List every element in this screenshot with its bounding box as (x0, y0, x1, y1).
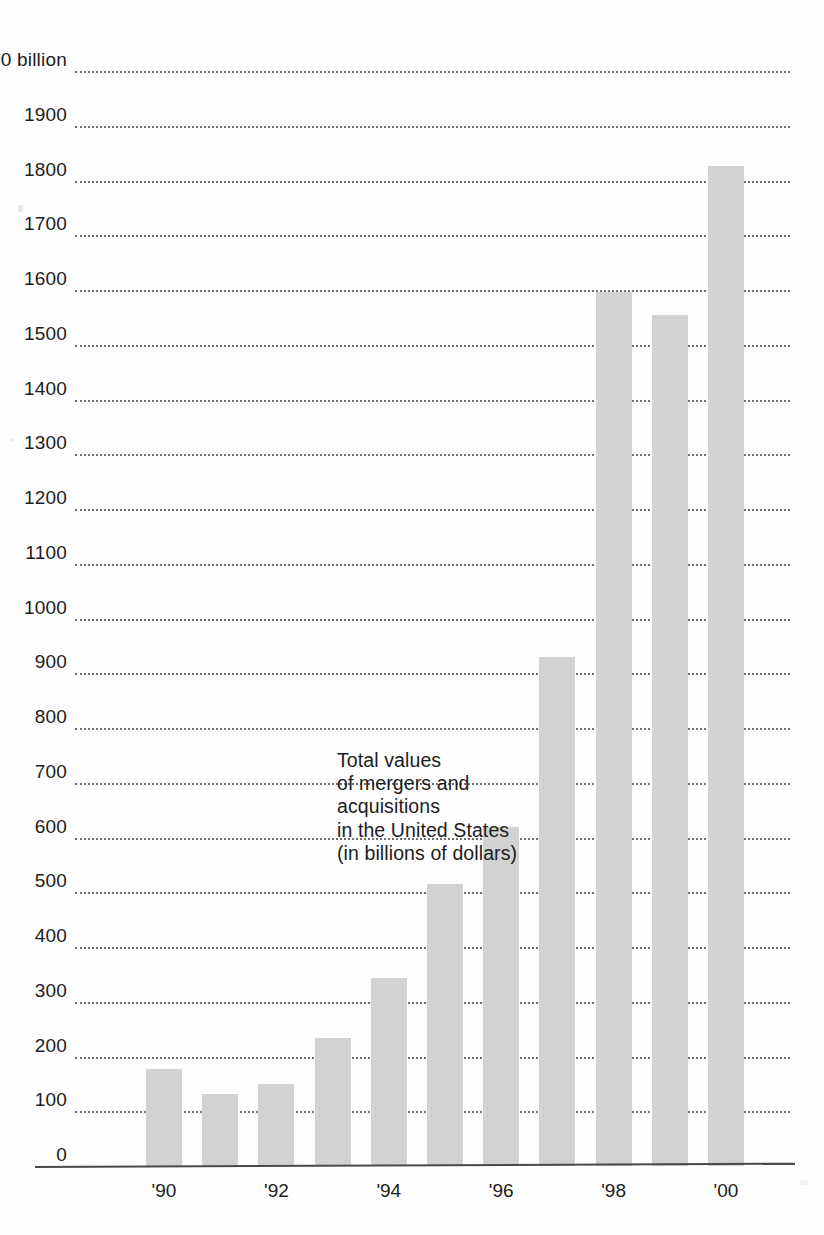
y-tick-label-1500: 1500 (24, 324, 67, 343)
bar-chart-figure: $ 2000 billion19001800170016001500140013… (0, 0, 824, 1235)
y-tick-label-800: 800 (35, 707, 67, 726)
bar-94 (371, 978, 407, 1166)
annotation-line-5: (in billions of dollars) (337, 842, 517, 865)
bars-group (75, 71, 790, 1166)
x-tick-label-98: '98 (601, 1181, 626, 1200)
x-tick-label-94: '94 (376, 1181, 401, 1200)
y-tick-label-1700: 1700 (24, 214, 67, 233)
annotation-line-3: acquisitions (337, 795, 517, 818)
y-tick-label-0: 0 (56, 1145, 67, 1164)
y-tick-label-500: 500 (35, 871, 67, 890)
bar-95 (427, 884, 463, 1166)
y-tick-label-700: 700 (35, 762, 67, 781)
y-tick-label-1200: 1200 (24, 488, 67, 507)
x-tick-label-90: '90 (152, 1181, 177, 1200)
scan-artifact (9, 438, 15, 442)
annotation-line-2: of mergers and (337, 772, 517, 795)
y-tick-label-200: 200 (35, 1036, 67, 1055)
y-tick-label-1300: 1300 (24, 433, 67, 452)
bar-96 (483, 827, 519, 1166)
y-tick-label-2000: $ 2000 billion (0, 50, 67, 69)
annotation-line-1: Total values (337, 749, 517, 772)
scan-artifact (800, 1180, 808, 1185)
x-tick-label-96: '96 (489, 1181, 514, 1200)
y-tick-label-300: 300 (35, 981, 67, 1000)
y-tick-label-1100: 1100 (25, 543, 67, 562)
y-tick-label-100: 100 (35, 1090, 67, 1109)
bar-99 (652, 315, 688, 1166)
bar-92 (258, 1084, 294, 1166)
x-tick-label-92: '92 (264, 1181, 289, 1200)
chart-annotation-text: Total valuesof mergers andacquisitionsin… (337, 749, 517, 865)
y-tick-label-1800: 1800 (24, 160, 67, 179)
scan-artifact (18, 205, 23, 212)
y-tick-label-1400: 1400 (24, 379, 67, 398)
bar-98 (596, 292, 632, 1166)
plot-area: $ 2000 billion19001800170016001500140013… (75, 71, 790, 1166)
bar-97 (539, 657, 575, 1166)
bar-93 (315, 1038, 351, 1166)
y-tick-label-1600: 1600 (24, 269, 67, 288)
y-tick-label-400: 400 (35, 926, 67, 945)
x-axis-tick-labels: '90'92'94'96'98'00 (75, 1181, 790, 1221)
bar-91 (202, 1094, 238, 1166)
y-tick-label-1000: 1000 (24, 598, 67, 617)
x-tick-label-00: '00 (714, 1181, 739, 1200)
annotation-line-4: in the United States (337, 819, 517, 842)
y-tick-label-1900: 1900 (24, 105, 67, 124)
y-tick-label-600: 600 (35, 817, 67, 836)
bar-90 (146, 1069, 182, 1166)
bar-00 (708, 166, 744, 1166)
y-tick-label-900: 900 (35, 652, 67, 671)
